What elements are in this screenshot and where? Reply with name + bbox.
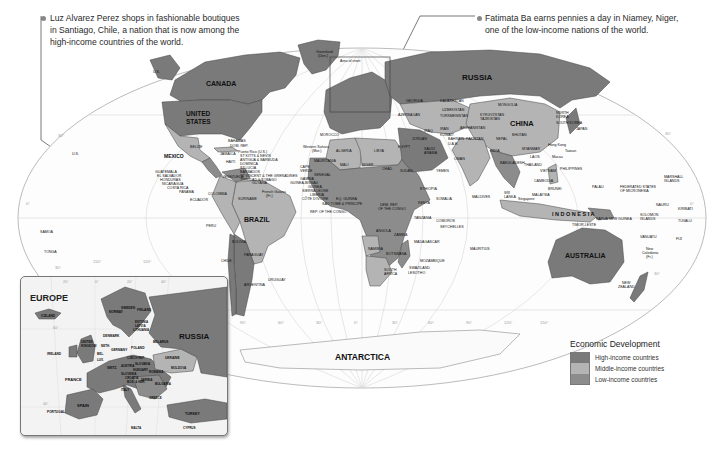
svg-text:REP. OF THE CONGO: REP. OF THE CONGO — [310, 210, 347, 214]
svg-text:COMOROS: COMOROS — [436, 219, 456, 223]
label-china: CHINA — [510, 119, 534, 128]
legend-label-high: High-income countries — [595, 354, 659, 361]
svg-text:BELIZE: BELIZE — [190, 145, 203, 149]
svg-text:30°: 30° — [654, 271, 660, 276]
svg-text:Area of inset: Area of inset — [340, 59, 360, 63]
svg-text:MYANMAR: MYANMAR — [522, 147, 541, 151]
svg-text:ZAMBIA: ZAMBIA — [394, 233, 408, 237]
svg-text:SOMALIA: SOMALIA — [436, 197, 453, 201]
inset-ireland — [69, 345, 77, 357]
svg-text:ROMANIA: ROMANIA — [149, 370, 164, 374]
svg-text:MOROCCO: MOROCCO — [320, 133, 339, 137]
svg-text:SPAIN: SPAIN — [77, 403, 89, 408]
svg-text:BELARUS: BELARUS — [153, 340, 168, 344]
legend-swatch-low — [570, 374, 590, 385]
svg-text:LANKA: LANKA — [504, 195, 516, 199]
svg-text:SENEGAL: SENEGAL — [314, 173, 331, 177]
svg-text:TUVALU: TUVALU — [678, 219, 692, 223]
svg-text:BRUNEI: BRUNEI — [548, 187, 562, 191]
svg-text:JAMAICA: JAMAICA — [220, 152, 236, 156]
svg-text:BEL.: BEL. — [97, 352, 104, 356]
svg-text:PALAU: PALAU — [592, 185, 604, 189]
svg-text:NAURU: NAURU — [656, 203, 669, 207]
svg-text:GREECE: GREECE — [149, 396, 162, 400]
svg-text:ZEALAND: ZEALAND — [618, 285, 635, 289]
svg-text:JAPAN: JAPAN — [576, 127, 588, 131]
svg-text:KINGDOM: KINGDOM — [81, 344, 97, 348]
svg-text:60°: 60° — [428, 320, 434, 325]
inset-title: EUROPE — [30, 293, 68, 303]
svg-text:MONGOLIA: MONGOLIA — [498, 103, 518, 107]
svg-text:SOUTH KOREA: SOUTH KOREA — [556, 121, 583, 125]
svg-text:GUYANA: GUYANA — [252, 181, 268, 185]
svg-text:ECUADOR: ECUADOR — [190, 198, 208, 202]
label-russia: RUSSIA — [462, 73, 492, 82]
label-indonesia: I N D O N E S I A — [552, 211, 595, 217]
svg-text:CHILE: CHILE — [221, 259, 232, 263]
svg-text:TAJIKISTAN: TAJIKISTAN — [480, 117, 500, 121]
svg-text:FRANCE: FRANCE — [65, 377, 82, 382]
svg-text:NAMIBIA: NAMIBIA — [368, 247, 383, 251]
svg-text:AZERBAIJAN: AZERBAIJAN — [398, 113, 421, 117]
svg-text:PAPUA NEW GUINEA: PAPUA NEW GUINEA — [596, 217, 632, 221]
svg-text:MALTA: MALTA — [131, 426, 142, 430]
svg-text:0°: 0° — [354, 320, 358, 325]
svg-text:SEYCHELLES: SEYCHELLES — [440, 225, 464, 229]
svg-text:LUX.: LUX. — [97, 358, 104, 362]
svg-text:120°: 120° — [504, 320, 513, 325]
svg-text:MADAGASCAR: MADAGASCAR — [414, 240, 440, 244]
svg-text:TANZANIA: TANZANIA — [414, 216, 432, 220]
svg-text:ICELAND: ICELAND — [41, 314, 56, 318]
svg-text:90°: 90° — [466, 320, 472, 325]
svg-text:PHILIPPINES: PHILIPPINES — [560, 167, 583, 171]
svg-text:60°: 60° — [278, 320, 284, 325]
svg-text:NORWAY: NORWAY — [109, 310, 124, 314]
svg-text:TONGA: TONGA — [44, 250, 57, 254]
label-antarctica: ANTARCTICA — [335, 352, 390, 362]
svg-text:OMAN: OMAN — [454, 157, 465, 161]
svg-text:MALAYSIA: MALAYSIA — [532, 193, 550, 197]
svg-text:SAO TOME & PRINCIPE: SAO TOME & PRINCIPE — [322, 202, 363, 206]
svg-text:IRAQ: IRAQ — [424, 129, 433, 133]
label-australia: AUSTRALIA — [565, 252, 605, 259]
legend-item-high-income: High-income countries — [570, 352, 709, 363]
label-united-states-2: STATES — [186, 118, 211, 125]
svg-text:BAHAMAS: BAHAMAS — [228, 139, 246, 143]
svg-text:GEORGIA: GEORGIA — [406, 99, 423, 103]
svg-text:ARABIA: ARABIA — [424, 151, 438, 155]
svg-text:INDIA: INDIA — [490, 149, 500, 153]
svg-text:DENMARK: DENMARK — [103, 334, 120, 338]
svg-text:PAKISTAN: PAKISTAN — [466, 137, 484, 141]
svg-text:Hong Kong: Hong Kong — [548, 143, 566, 147]
svg-text:EGYPT: EGYPT — [398, 145, 411, 149]
legend-label-middle: Middle-income countries — [595, 365, 664, 372]
svg-text:FIJI: FIJI — [676, 237, 682, 241]
svg-text:MOZAMBIQUE: MOZAMBIQUE — [420, 259, 445, 263]
svg-text:VIETNAM: VIETNAM — [540, 169, 556, 173]
svg-text:Singapore: Singapore — [518, 197, 534, 201]
svg-text:SWAZILAND: SWAZILAND — [409, 266, 430, 270]
svg-text:BANGLADESH: BANGLADESH — [500, 161, 525, 165]
svg-text:BHUTAN: BHUTAN — [512, 133, 527, 137]
svg-text:TURKEY: TURKEY — [185, 412, 200, 416]
svg-text:SURINAME: SURINAME — [238, 197, 258, 201]
svg-text:CÔTE D'IVOIRE: CÔTE D'IVOIRE — [302, 196, 329, 201]
label-canada: CANADA — [206, 80, 236, 87]
legend-swatch-middle — [570, 363, 590, 374]
svg-text:ISLANDS: ISLANDS — [664, 179, 680, 183]
svg-text:Macau: Macau — [552, 155, 563, 159]
svg-text:150°: 150° — [93, 259, 102, 264]
svg-text:SWITZ.: SWITZ. — [107, 366, 117, 370]
svg-text:PERU: PERU — [206, 224, 216, 228]
svg-text:IRELAND: IRELAND — [47, 352, 62, 356]
svg-text:(Fr.): (Fr.) — [646, 255, 653, 259]
svg-text:0°: 0° — [26, 201, 30, 206]
svg-text:U.S.: U.S. — [72, 152, 79, 156]
svg-text:PANAMA: PANAMA — [179, 190, 195, 194]
svg-text:NEPAL: NEPAL — [496, 137, 508, 141]
svg-text:KENYA: KENYA — [418, 201, 431, 205]
svg-text:BAHRAIN: BAHRAIN — [448, 137, 464, 141]
svg-text:KAZAKHSTAN: KAZAKHSTAN — [440, 99, 464, 103]
svg-text:20°: 20° — [63, 280, 69, 284]
legend-item-low-income: Low-income countries — [570, 374, 709, 385]
